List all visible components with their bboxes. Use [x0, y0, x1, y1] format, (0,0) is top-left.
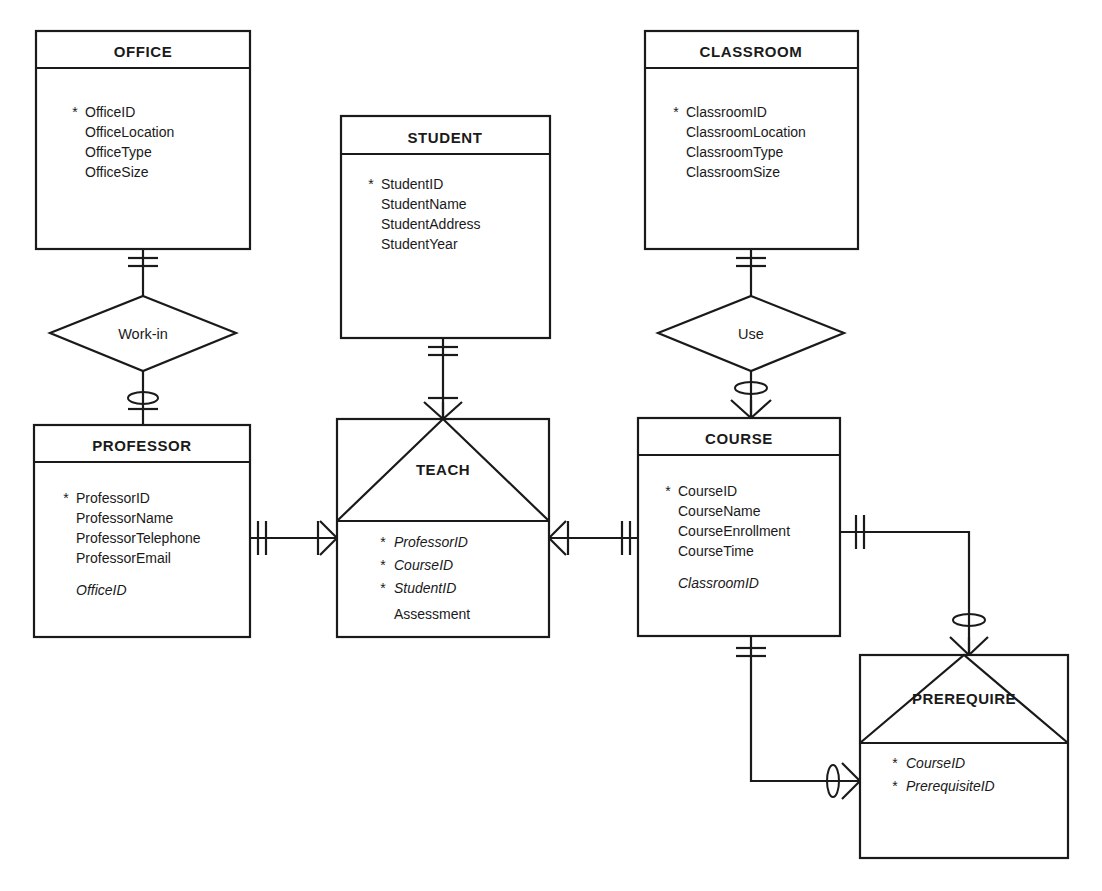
associative-entity-teach-attr-1: CourseID — [394, 557, 453, 573]
entity-course-title: COURSE — [705, 430, 773, 447]
entity-student-attr-2: StudentAddress — [381, 216, 481, 232]
relationship-use-label: Use — [738, 326, 764, 342]
entity-professor[interactable]: PROFESSOR * ProfessorID ProfessorName Pr… — [34, 425, 250, 637]
entity-classroom-attr-2: ClassroomType — [686, 144, 783, 160]
associative-entity-teach[interactable]: TEACH * ProfessorID * CourseID * Student… — [337, 419, 549, 637]
relationship-work-in-label: Work-in — [118, 326, 168, 342]
connector-teach-course — [549, 521, 638, 555]
entity-course-attr-0: CourseID — [678, 483, 737, 499]
associative-entity-prerequire-attr-1: PrerequisiteID — [906, 778, 995, 794]
associative-entity-prerequire-attr-0-key: * — [892, 755, 898, 771]
entity-student[interactable]: STUDENT * StudentID StudentName StudentA… — [341, 116, 550, 338]
entity-office-attr-0-key: * — [72, 104, 78, 120]
associative-entity-teach-attr-2-key: * — [380, 580, 386, 596]
entity-professor-attr-2: ProfessorTelephone — [76, 530, 201, 546]
connector-professor-teach — [250, 521, 337, 555]
entity-classroom-attr-3: ClassroomSize — [686, 164, 780, 180]
entity-professor-attr-3: ProfessorEmail — [76, 550, 171, 566]
entity-course-attr-3: CourseTime — [678, 543, 754, 559]
entity-course[interactable]: COURSE * CourseID CourseName CourseEnrol… — [638, 418, 840, 636]
entity-classroom-title: CLASSROOM — [700, 43, 803, 60]
associative-entity-teach-title: TEACH — [416, 461, 470, 478]
entity-professor-attr-0: ProfessorID — [76, 490, 150, 506]
associative-entity-teach-attr-2: StudentID — [394, 580, 456, 596]
entity-office-attr-2: OfficeType — [85, 144, 152, 160]
entity-classroom-attr-1: ClassroomLocation — [686, 124, 806, 140]
entity-professor-attr-0-key: * — [63, 490, 69, 506]
associative-entity-prerequire-title: PREREQUIRE — [912, 690, 1016, 707]
entity-professor-attr-4-foreign-key: OfficeID — [76, 582, 127, 598]
connector-student-teach — [424, 338, 462, 419]
entity-office-attr-3: OfficeSize — [85, 164, 149, 180]
entity-course-attr-2: CourseEnrollment — [678, 523, 790, 539]
entity-course-attr-4-foreign-key: ClassroomID — [678, 575, 759, 591]
entity-student-attr-0: StudentID — [381, 176, 443, 192]
entity-student-title: STUDENT — [407, 129, 482, 146]
er-diagram-canvas: OFFICE * OfficeID OfficeLocation OfficeT… — [0, 0, 1102, 891]
entity-classroom-attr-0: ClassroomID — [686, 104, 767, 120]
connector-course-prerequire-bottom — [736, 636, 860, 799]
entity-course-attr-0-key: * — [665, 483, 671, 499]
entity-office-title: OFFICE — [114, 43, 173, 60]
entity-student-attr-1: StudentName — [381, 196, 467, 212]
entity-course-attr-1: CourseName — [678, 503, 761, 519]
entity-professor-attr-1: ProfessorName — [76, 510, 173, 526]
associative-entity-prerequire-attr-0: CourseID — [906, 755, 965, 771]
entity-office-attr-0: OfficeID — [85, 104, 135, 120]
entity-student-attr-3: StudentYear — [381, 236, 458, 252]
er-diagram-svg: OFFICE * OfficeID OfficeLocation OfficeT… — [0, 0, 1102, 891]
relationship-work-in[interactable]: Work-in — [50, 296, 236, 371]
entity-office-attr-1: OfficeLocation — [85, 124, 174, 140]
connector-course-prerequire-top — [840, 515, 988, 655]
associative-entity-teach-attr-0-key: * — [380, 534, 386, 550]
entity-classroom[interactable]: CLASSROOM * ClassroomID ClassroomLocatio… — [645, 31, 858, 249]
relationship-use[interactable]: Use — [658, 296, 844, 371]
entity-professor-title: PROFESSOR — [92, 437, 192, 454]
associative-entity-prerequire[interactable]: PREREQUIRE * CourseID * PrerequisiteID — [860, 655, 1068, 858]
associative-entity-teach-attr-0: ProfessorID — [394, 534, 468, 550]
entity-office[interactable]: OFFICE * OfficeID OfficeLocation OfficeT… — [36, 31, 250, 249]
associative-entity-teach-attr-1-key: * — [380, 557, 386, 573]
associative-entity-teach-attr-3: Assessment — [394, 606, 470, 622]
associative-entity-prerequire-attr-1-key: * — [892, 778, 898, 794]
entity-classroom-attr-0-key: * — [673, 104, 679, 120]
entity-student-attr-0-key: * — [368, 176, 374, 192]
